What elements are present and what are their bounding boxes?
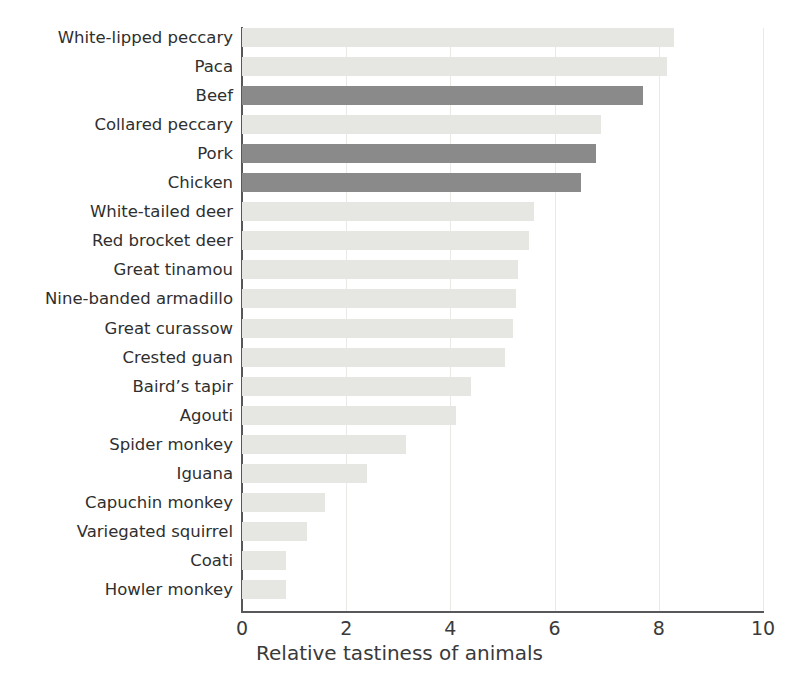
category-axis-labels: White-lipped peccaryPacaBeefCollared pec… [0,28,233,611]
x-tick-label: 10 [751,617,775,639]
category-label: Coati [5,551,233,570]
x-tick-label: 6 [549,617,561,639]
bar [242,464,367,483]
bar [242,144,596,163]
category-label: Red brocket deer [5,231,233,250]
category-label: White-lipped peccary [5,28,233,47]
x-axis-line [241,611,764,613]
category-label: Crested guan [5,348,233,367]
bar [242,260,518,279]
category-label: Howler monkey [5,580,233,599]
bar [242,551,286,570]
bar [242,522,307,541]
category-label: Collared peccary [5,115,233,134]
category-label: Baird’s tapir [5,377,233,396]
bar [242,493,325,512]
category-label: Pork [5,144,233,163]
category-label: Great tinamou [5,260,233,279]
bar [242,115,601,134]
bar [242,319,513,338]
bar [242,406,456,425]
bar [242,28,674,47]
gridline [659,28,660,611]
bar [242,580,286,599]
bar [242,231,529,250]
gridline [763,28,764,611]
x-tick-label: 8 [653,617,665,639]
bar [242,173,581,192]
bar [242,289,516,308]
bar [242,57,667,76]
bar [242,348,505,367]
category-label: Capuchin monkey [5,493,233,512]
x-tick-label: 0 [236,617,248,639]
bar [242,435,406,454]
bar-chart-figure: White-lipped peccaryPacaBeefCollared pec… [0,0,799,686]
x-tick-label: 4 [444,617,456,639]
category-label: Chicken [5,173,233,192]
category-label: Spider monkey [5,435,233,454]
category-label: Variegated squirrel [5,522,233,541]
category-label: Nine-banded armadillo [5,289,233,308]
category-label: Iguana [5,464,233,483]
x-axis-title: Relative tastiness of animals [0,641,799,665]
category-label: Beef [5,86,233,105]
category-label: Paca [5,57,233,76]
bar [242,202,534,221]
bar [242,377,471,396]
bar [242,86,643,105]
category-label: Great curassow [5,319,233,338]
category-label: Agouti [5,406,233,425]
plot-area [242,28,763,611]
x-tick-label: 2 [340,617,352,639]
category-label: White-tailed deer [5,202,233,221]
